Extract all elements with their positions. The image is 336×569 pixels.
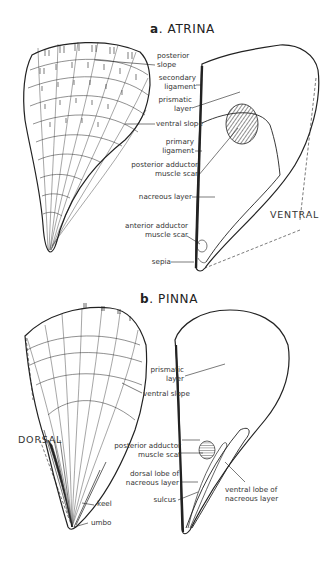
label-keel: keel bbox=[97, 500, 112, 509]
figure-b-name: PINNA bbox=[158, 292, 198, 306]
label-ventral-lobe: ventral lobe of nacreous layer bbox=[225, 486, 278, 503]
figure-b-title: b. PINNA bbox=[140, 292, 198, 306]
label-umbo: umbo bbox=[91, 519, 112, 528]
label-line: ligament bbox=[162, 147, 194, 156]
label-line: muscle scar bbox=[114, 451, 181, 460]
figure-a-name: ATRINA bbox=[168, 22, 215, 36]
label-primary-ligament: primary ligament bbox=[162, 138, 194, 155]
label-line: nacreous layer bbox=[126, 479, 179, 488]
label-ventral-slope-b: ventral slope bbox=[143, 390, 190, 399]
label-line: ligament bbox=[159, 83, 196, 92]
label-posterior-adductor-b: posterior adductor muscle scar bbox=[114, 442, 181, 459]
pinna-exterior-shell bbox=[25, 303, 147, 529]
label-line: muscle scar bbox=[131, 170, 198, 179]
label-line: slope bbox=[157, 61, 189, 70]
label-anterior-adductor: anterior adductor muscle scar bbox=[125, 222, 188, 239]
label-posterior-adductor-a: posterior adductor muscle scar bbox=[131, 161, 198, 178]
figure-b-letter: b bbox=[140, 292, 149, 306]
label-posterior-slope: posterior slope bbox=[157, 52, 189, 69]
label-dorsal-lobe: dorsal lobe of nacreous layer bbox=[126, 470, 179, 487]
label-prismatic-layer-b: prismatic layer bbox=[151, 366, 184, 383]
label-secondary-ligament: secondary ligament bbox=[159, 74, 196, 91]
label-line: layer bbox=[159, 105, 192, 114]
figure-a-letter: a bbox=[150, 22, 159, 36]
label-line: layer bbox=[151, 375, 184, 384]
label-nacreous-layer: nacreous layer bbox=[139, 193, 192, 202]
label-line: nacreous layer bbox=[225, 495, 278, 504]
label-sepia: sepia bbox=[152, 258, 171, 267]
label-prismatic-layer-a: prismatic layer bbox=[159, 96, 192, 113]
label-dorsal: DORSAL bbox=[18, 434, 62, 445]
figure-a-title: a. ATRINA bbox=[150, 22, 215, 36]
label-line: muscle scar bbox=[125, 231, 188, 240]
label-ventral: VENTRAL bbox=[270, 209, 319, 220]
label-ventral-slope-a: ventral slope bbox=[156, 120, 203, 129]
label-sulcus: sulcus bbox=[153, 496, 176, 505]
